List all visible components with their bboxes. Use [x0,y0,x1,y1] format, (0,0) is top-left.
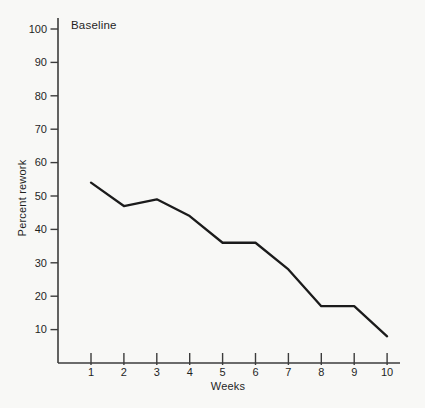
line-chart: 10203040506070809010012345678910 [0,0,425,408]
chart-figure: 10203040506070809010012345678910 Baselin… [0,0,425,408]
y-tick-label: 90 [35,56,47,68]
x-axis-title: Weeks [193,380,263,392]
x-tick-label: 5 [220,366,226,378]
x-tick-label: 9 [351,366,357,378]
x-tick-label: 3 [154,366,160,378]
x-tick-label: 8 [318,366,324,378]
x-tick-label: 7 [285,366,291,378]
y-axis-title: Percent rework [16,153,30,243]
x-tick-label: 10 [381,366,393,378]
y-tick-label: 30 [35,257,47,269]
baseline-annotation: Baseline [71,19,117,31]
y-tick-label: 10 [35,323,47,335]
x-tick-label: 1 [88,366,94,378]
y-axis-ticks: 102030405060708090100 [29,23,58,336]
y-tick-label: 20 [35,290,47,302]
y-tick-label: 100 [29,23,47,35]
y-tick-label: 60 [35,156,47,168]
y-tick-label: 50 [35,190,47,202]
y-tick-label: 80 [35,90,47,102]
y-tick-label: 70 [35,123,47,135]
x-tick-label: 2 [121,366,127,378]
x-axis-ticks: 12345678910 [88,353,393,378]
x-tick-label: 4 [187,366,193,378]
rework-trend-line [91,183,387,337]
y-tick-label: 40 [35,223,47,235]
x-tick-label: 6 [252,366,258,378]
